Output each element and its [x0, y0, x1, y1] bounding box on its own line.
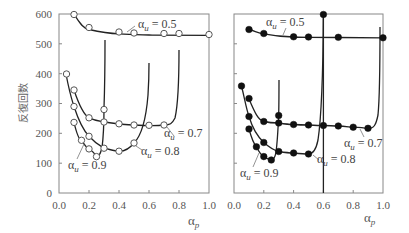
marker: [320, 11, 327, 18]
right-label-au05: αu= 0.5: [266, 15, 305, 31]
marker: [350, 124, 357, 131]
marker: [261, 30, 268, 37]
right-curve-au05: [249, 30, 383, 38]
xtick-0: 0.0: [227, 199, 241, 211]
marker: [365, 125, 372, 132]
xtick-0.6: 0.6: [317, 199, 331, 211]
marker: [290, 121, 297, 128]
marker: [320, 122, 327, 129]
y-axis-title: 反復回数: [17, 83, 29, 123]
xtick-0: 0.0: [52, 199, 66, 211]
right-label-au07: αu= 0.7: [344, 136, 383, 152]
marker: [246, 26, 253, 33]
xtick-1.0: 1.0: [202, 199, 216, 211]
marker: [101, 106, 107, 112]
marker: [78, 137, 84, 143]
marker: [335, 34, 342, 41]
left-panel: 0 100 200 300 400 500 600 0.0 0.2 0.4 0.…: [17, 8, 216, 230]
marker: [116, 148, 122, 154]
marker: [101, 145, 107, 151]
marker: [86, 24, 92, 30]
ytick-200: 200: [36, 127, 53, 139]
marker: [275, 120, 282, 127]
marker: [116, 29, 122, 35]
marker: [146, 122, 152, 128]
right-curve-au07: [249, 27, 380, 129]
marker: [261, 118, 268, 125]
marker: [290, 34, 297, 41]
marker: [86, 115, 92, 121]
left-y-tick-labels: 0 100 200 300 400 500 600: [36, 8, 53, 199]
left-label-au07: αu= 0.7: [164, 126, 203, 142]
marker: [261, 139, 268, 146]
xtick-0.2: 0.2: [82, 199, 96, 211]
marker: [131, 30, 137, 36]
marker: [380, 35, 387, 42]
ytick-400: 400: [36, 68, 53, 80]
xtick-0.2: 0.2: [257, 199, 271, 211]
marker: [261, 153, 268, 160]
left-x-tick-labels: 0.0 0.2 0.4 0.6 0.8 1.0: [52, 199, 216, 211]
marker: [71, 87, 77, 93]
xtick-0.6: 0.6: [142, 199, 156, 211]
marker: [86, 146, 92, 152]
xtick-1.0: 1.0: [376, 199, 390, 211]
marker: [246, 95, 253, 102]
marker: [246, 113, 253, 120]
ytick-100: 100: [36, 157, 53, 169]
marker: [305, 151, 312, 158]
left-curve-au07: [74, 50, 179, 125]
marker: [238, 83, 245, 90]
left-label-au09: αu= 0.9: [68, 158, 107, 174]
left-label-au05: αu= 0.5: [138, 17, 177, 33]
marker: [71, 103, 77, 109]
marker: [253, 144, 260, 151]
marker: [275, 112, 282, 119]
xtick-0.4: 0.4: [287, 199, 301, 211]
marker: [268, 157, 275, 164]
marker: [206, 31, 212, 37]
marker: [116, 121, 122, 127]
left-label-au08: αu= 0.8: [141, 144, 180, 160]
marker: [71, 11, 77, 17]
right-label-au08: αu= 0.8: [317, 152, 356, 168]
xtick-0.8: 0.8: [172, 199, 186, 211]
marker: [246, 126, 253, 133]
marker: [86, 133, 92, 139]
ytick-300: 300: [36, 97, 53, 109]
chart-canvas: 0 100 200 300 400 500 600 0.0 0.2 0.4 0.…: [0, 0, 409, 233]
marker: [101, 119, 107, 125]
right-label-au09: αu= 0.9: [240, 166, 279, 182]
marker: [335, 123, 342, 130]
right-x-axis-title: αp: [364, 210, 376, 227]
marker: [305, 34, 312, 41]
ytick-0: 0: [47, 187, 53, 199]
marker: [63, 71, 69, 77]
marker: [305, 122, 312, 129]
ytick-500: 500: [36, 38, 53, 50]
marker: [71, 119, 77, 125]
xtick-0.4: 0.4: [112, 199, 126, 211]
marker: [131, 122, 137, 128]
xtick-0.8: 0.8: [346, 199, 360, 211]
marker: [131, 140, 137, 146]
marker: [161, 30, 167, 36]
marker: [176, 30, 182, 36]
marker: [275, 148, 282, 155]
ytick-600: 600: [36, 8, 53, 20]
left-x-axis-title: αp: [188, 213, 200, 230]
right-panel: 0.0 0.2 0.4 0.6 0.8 1.0 αp: [227, 11, 390, 227]
marker: [290, 150, 297, 157]
